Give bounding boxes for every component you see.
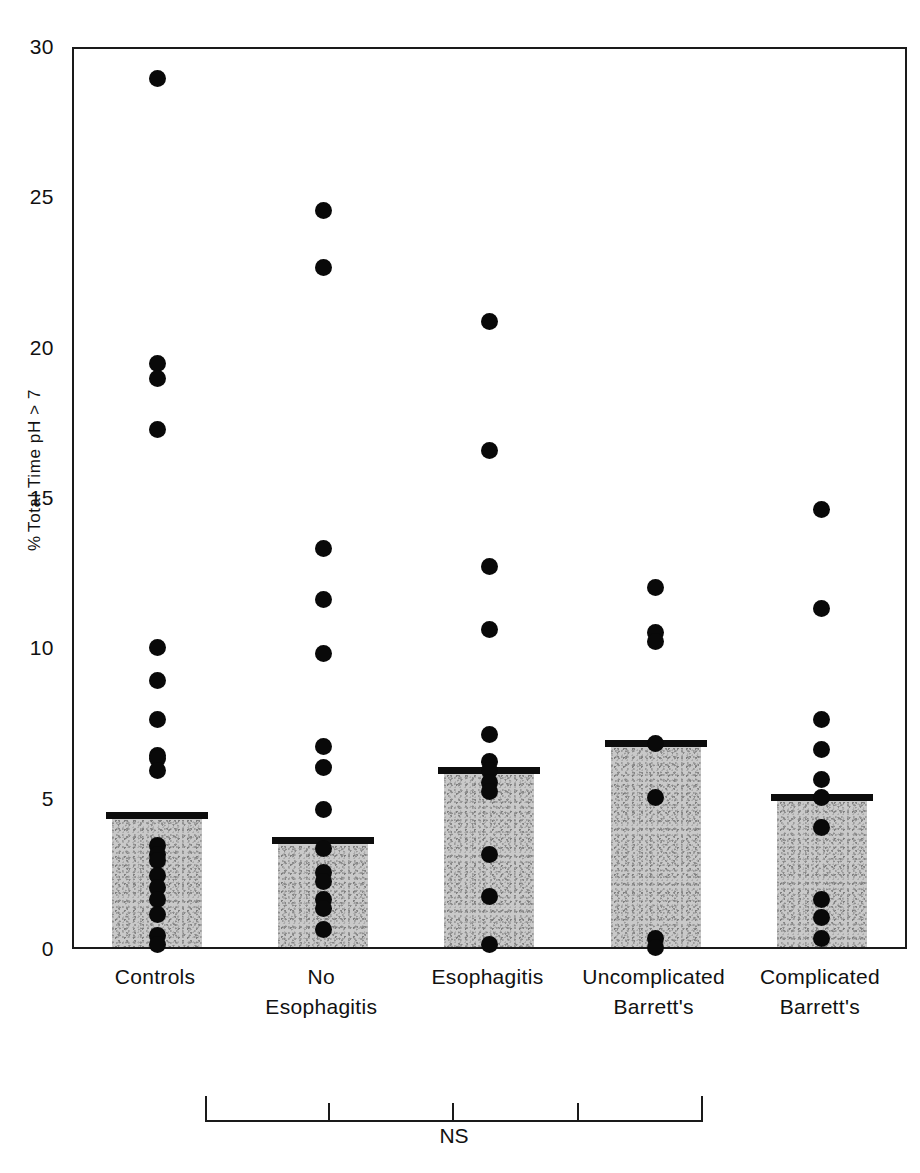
x-axis-label-line: Uncomplicated <box>582 962 725 992</box>
x-axis-label-line: Esophagitis <box>265 992 377 1022</box>
data-point <box>149 639 166 656</box>
bracket-end-right <box>701 1096 703 1122</box>
data-point <box>813 930 830 947</box>
data-point <box>149 711 166 728</box>
data-point <box>481 442 498 459</box>
data-point <box>481 783 498 800</box>
y-tick-label-20: 20 <box>30 336 54 360</box>
bracket-end-left <box>205 1096 207 1122</box>
data-point <box>315 540 332 557</box>
x-axis-label-line: Barrett's <box>582 992 725 1022</box>
x-axis-label: UncomplicatedBarrett's <box>582 962 725 1022</box>
data-point <box>315 921 332 938</box>
data-point <box>813 771 830 788</box>
data-point <box>481 558 498 575</box>
x-axis-label-line: Complicated <box>760 962 880 992</box>
x-axis-labels: ControlsNoEsophagitisEsophagitisUncompli… <box>72 962 907 1042</box>
data-point <box>315 259 332 276</box>
y-tick-label-30: 30 <box>30 35 54 59</box>
data-point <box>813 711 830 728</box>
significance-label: NS <box>205 1124 703 1148</box>
x-axis-label-line: Esophagitis <box>432 962 544 992</box>
data-point <box>149 70 166 87</box>
mean-cap-line <box>106 812 208 819</box>
data-point <box>481 313 498 330</box>
data-point <box>647 579 664 596</box>
data-point <box>813 891 830 908</box>
data-point <box>813 741 830 758</box>
y-axis: % Total Time pH > 7 30 25 20 15 10 5 0 <box>0 0 72 949</box>
chart-root: % Total Time pH > 7 30 25 20 15 10 5 0 C… <box>0 0 920 1173</box>
bar <box>611 743 701 947</box>
data-point <box>315 840 332 857</box>
data-point <box>315 801 332 818</box>
data-point <box>481 726 498 743</box>
y-tick-label-25: 25 <box>30 185 54 209</box>
plot-area <box>72 47 907 949</box>
data-point <box>315 900 332 917</box>
data-point <box>315 759 332 776</box>
data-point <box>149 370 166 387</box>
data-point <box>481 936 498 953</box>
data-point <box>149 672 166 689</box>
data-point <box>647 633 664 650</box>
data-point <box>149 421 166 438</box>
x-axis-label: Esophagitis <box>432 962 544 992</box>
y-tick-label-0: 0 <box>42 937 54 961</box>
data-point <box>149 906 166 923</box>
bar-group <box>573 49 739 947</box>
data-point <box>813 909 830 926</box>
bracket-tick-2 <box>452 1103 454 1122</box>
x-axis-label-line: Controls <box>115 962 196 992</box>
data-point <box>315 645 332 662</box>
bar-group <box>240 49 406 947</box>
data-point <box>149 936 166 953</box>
y-tick-label-15: 15 <box>30 486 54 510</box>
bracket-tick-3 <box>577 1103 579 1122</box>
x-axis-label: ComplicatedBarrett's <box>760 962 880 1022</box>
plot-inner <box>74 49 905 947</box>
bracket-baseline <box>205 1120 703 1122</box>
x-axis-label-line: Barrett's <box>760 992 880 1022</box>
x-axis-label: Controls <box>115 962 196 992</box>
data-point <box>481 621 498 638</box>
data-point <box>149 762 166 779</box>
y-axis-title-text: Total Time pH > 7 <box>25 389 44 537</box>
data-point <box>315 738 332 755</box>
x-axis-label-line: No <box>265 962 377 992</box>
data-point <box>813 600 830 617</box>
y-tick-label-5: 5 <box>42 787 54 811</box>
data-point <box>647 939 664 956</box>
data-point <box>813 501 830 518</box>
percent-glyph: % <box>25 537 44 551</box>
data-point <box>647 735 664 752</box>
bar-group <box>74 49 240 947</box>
x-axis-label: NoEsophagitis <box>265 962 377 1022</box>
data-point <box>315 202 332 219</box>
bar-group <box>406 49 572 947</box>
bracket-tick-1 <box>328 1103 330 1122</box>
data-point <box>647 789 664 806</box>
data-point <box>315 591 332 608</box>
y-axis-title: % Total Time pH > 7 <box>25 260 45 680</box>
y-tick-label-10: 10 <box>30 636 54 660</box>
data-point <box>481 846 498 863</box>
bar-group <box>739 49 905 947</box>
data-point <box>315 873 332 890</box>
data-point <box>481 888 498 905</box>
significance-bracket <box>205 1096 703 1122</box>
